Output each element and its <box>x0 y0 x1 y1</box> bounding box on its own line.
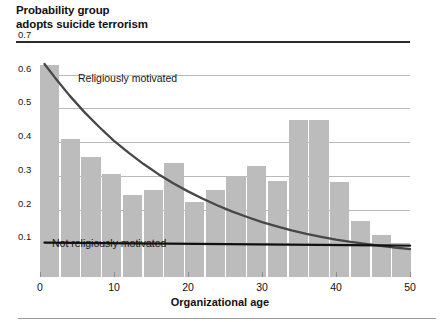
bar <box>372 235 391 277</box>
bar <box>206 190 225 277</box>
x-tick-label: 10 <box>99 281 129 293</box>
y-tick-label: 0.7 <box>18 29 31 40</box>
y-tick-label: 0.4 <box>18 130 31 141</box>
x-tick-label: 40 <box>321 281 351 293</box>
bar <box>351 221 370 277</box>
bar <box>309 120 328 277</box>
x-tick-mark <box>410 272 411 277</box>
x-axis-line <box>18 318 436 319</box>
gridline-0.4 <box>40 142 410 143</box>
bar <box>81 157 100 277</box>
y-tick-label: 0.2 <box>18 198 31 209</box>
x-tick-mark <box>188 272 189 277</box>
y-tick-label: 0.5 <box>18 96 31 107</box>
x-tick-label: 0 <box>25 281 55 293</box>
bar <box>102 174 121 277</box>
y-tick-label: 0.3 <box>18 164 31 175</box>
bar <box>289 120 308 277</box>
x-tick-label: 20 <box>173 281 203 293</box>
bar <box>330 182 349 277</box>
y-tick-label: 0.1 <box>18 231 31 242</box>
x-tick-mark <box>114 272 115 277</box>
x-tick-mark <box>262 272 263 277</box>
x-axis-title: Organizational age <box>0 296 440 308</box>
religiously-motivated-label: Religiously motivated <box>78 72 177 84</box>
bar <box>268 181 287 277</box>
x-tick-label: 30 <box>247 281 277 293</box>
x-tick-mark <box>40 272 41 277</box>
bar <box>392 248 411 277</box>
not-religiously-motivated-label: Not religiously motivated <box>52 237 166 249</box>
bar <box>164 163 183 277</box>
bar <box>144 190 163 277</box>
chart-figure: Probability group adopts suicide terrori… <box>0 0 440 322</box>
bar <box>185 202 204 277</box>
x-tick-label: 50 <box>395 281 425 293</box>
gridline-0.7 <box>16 41 410 43</box>
bar <box>226 176 245 277</box>
x-tick-mark <box>336 272 337 277</box>
y-tick-label: 0.6 <box>18 63 31 74</box>
bar <box>247 166 266 277</box>
bar <box>61 139 80 277</box>
chart-title: Probability group adopts suicide terrori… <box>16 4 256 31</box>
gridline-0.5 <box>40 108 410 109</box>
